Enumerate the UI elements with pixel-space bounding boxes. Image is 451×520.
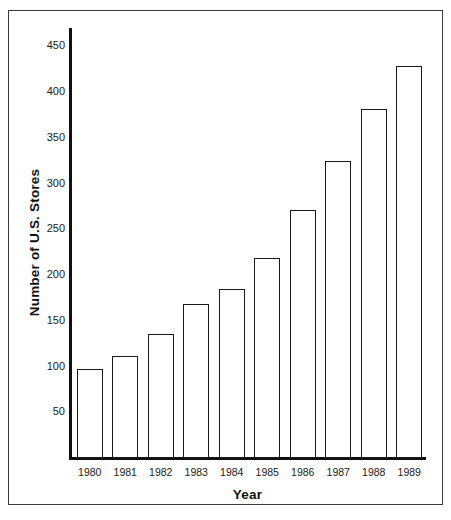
bar	[219, 289, 245, 458]
bar	[361, 109, 387, 458]
y-axis-title: Number of U.S. Stores	[27, 133, 42, 353]
x-axis-tick-label: 1989	[387, 466, 431, 478]
y-axis-line	[69, 28, 72, 460]
bar-chart-plot-area: 45040035030025020015010050 Number of U.S…	[0, 0, 451, 520]
bar	[183, 304, 209, 458]
y-axis-tick-label: 450	[37, 40, 65, 51]
bar	[325, 161, 351, 458]
y-axis-tick-label: 50	[37, 406, 65, 417]
bar	[112, 356, 138, 458]
bar	[254, 258, 280, 458]
bar	[396, 66, 422, 458]
bar	[148, 334, 174, 458]
bar	[77, 369, 103, 458]
x-axis-title: Year	[69, 487, 426, 502]
y-axis-tick-label: 100	[37, 361, 65, 372]
bar	[290, 210, 316, 458]
figure: 45040035030025020015010050 Number of U.S…	[0, 0, 451, 520]
y-axis-tick-label: 400	[37, 86, 65, 97]
